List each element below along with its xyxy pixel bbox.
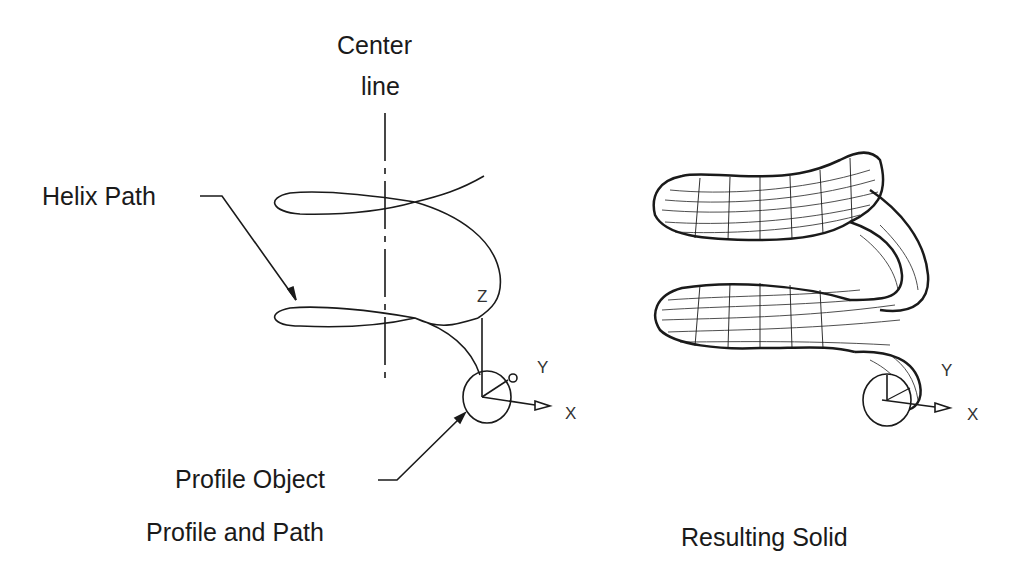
resulting-solid-drawing xyxy=(654,152,950,426)
helix-path-upper xyxy=(275,176,501,318)
x-axis-label: X xyxy=(565,404,576,424)
helix-path-leader xyxy=(200,196,296,300)
right-caption: Resulting Solid xyxy=(681,525,848,550)
profile-and-path-drawing xyxy=(0,0,1020,585)
helix-path-label: Helix Path xyxy=(42,184,156,209)
profile-object-leader xyxy=(378,418,460,480)
helix-path-lower xyxy=(275,307,480,375)
solid-y-axis-label: Y xyxy=(941,361,952,381)
upper-coil-outline xyxy=(654,152,883,240)
z-axis-label: Z xyxy=(477,287,487,307)
middle-coil-outline xyxy=(655,222,902,352)
solid-x-axis-label: X xyxy=(967,405,978,425)
center-line-label-1: Center xyxy=(337,33,412,58)
center-line-label-2: line xyxy=(361,74,400,99)
left-caption: Profile and Path xyxy=(146,520,324,545)
profile-object-label: Profile Object xyxy=(175,467,325,492)
y-axis-label: Y xyxy=(537,358,548,378)
